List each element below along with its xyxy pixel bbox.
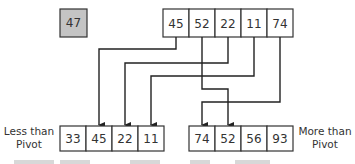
less-than-label: Less than Pivot (4, 125, 54, 150)
input-array: 4552221174 (163, 9, 293, 37)
input-value: 11 (246, 17, 261, 31)
input-value: 52 (194, 17, 209, 31)
more-than-cell: 93 (267, 126, 293, 151)
input-cell: 11 (241, 9, 267, 37)
less-than-value: 11 (143, 132, 158, 146)
more-than-label-line1: More than (298, 125, 351, 137)
pivot-box: 47 (60, 9, 87, 37)
pivot-value: 47 (66, 16, 81, 30)
less-than-value: 45 (91, 132, 106, 146)
less-than-cell: 33 (60, 126, 86, 151)
partition-diagram: 47 4552221174 Less than Pivot 33452211 7… (0, 0, 355, 164)
input-cell: 52 (189, 9, 215, 37)
input-cell: 45 (163, 9, 189, 37)
less-than-label-line2: Pivot (16, 138, 42, 150)
input-cell: 74 (267, 9, 293, 37)
more-than-cell: 74 (189, 126, 215, 151)
arrow-52-to-more (202, 37, 228, 125)
more-than-cell: 52 (215, 126, 241, 151)
input-value: 74 (272, 17, 287, 31)
less-than-label-line1: Less than (4, 125, 54, 137)
caption-fragment (14, 160, 270, 164)
more-than-value: 93 (272, 132, 287, 146)
input-value: 45 (168, 17, 183, 31)
arrow-45-to-less (99, 37, 176, 125)
more-than-label-line2: Pivot (312, 138, 338, 150)
more-than-array: 74525693 (189, 126, 293, 151)
less-than-value: 33 (65, 132, 80, 146)
less-than-array: 33452211 (60, 126, 164, 151)
more-than-label: More than Pivot (298, 125, 351, 150)
arrow-22-to-less (125, 37, 228, 125)
input-cell: 22 (215, 9, 241, 37)
input-value: 22 (220, 17, 235, 31)
less-than-value: 22 (117, 132, 132, 146)
more-than-value: 52 (220, 132, 235, 146)
less-than-cell: 22 (112, 126, 138, 151)
more-than-value: 56 (246, 132, 261, 146)
less-than-cell: 11 (138, 126, 164, 151)
connectors (99, 37, 280, 125)
more-than-cell: 56 (241, 126, 267, 151)
arrow-74-to-more (202, 37, 280, 125)
more-than-value: 74 (194, 132, 209, 146)
less-than-cell: 45 (86, 126, 112, 151)
